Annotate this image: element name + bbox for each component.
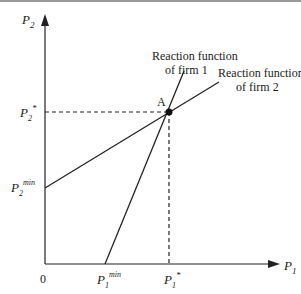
p1-min-label: P1min (96, 270, 121, 290)
point-a-label: A (157, 95, 166, 109)
y-axis-arrow-icon (41, 14, 49, 26)
reaction-function-firm-1 (105, 71, 184, 264)
x-axis-arrow-icon (268, 260, 280, 268)
p2-star-label: P2* (19, 103, 37, 123)
rf1-label-line2: of firm 1 (165, 63, 208, 77)
y-axis-label: P2 (21, 12, 35, 30)
origin-label: 0 (40, 272, 46, 286)
p1-star-label: P1* (163, 270, 181, 290)
x-axis-label: P1 (283, 258, 296, 276)
rf2-label-line2: of firm 2 (236, 80, 279, 94)
p2-min-label: P2min (10, 178, 35, 198)
rf2-label-line1: Reaction function (218, 66, 301, 80)
equilibrium-point (166, 109, 173, 116)
reaction-function-diagram: A P2 P1 0 P2* P2min P1min P1* Reaction f… (0, 0, 301, 294)
rf1-label-line1: Reaction function (152, 49, 238, 63)
reaction-function-firm-2 (45, 82, 219, 188)
